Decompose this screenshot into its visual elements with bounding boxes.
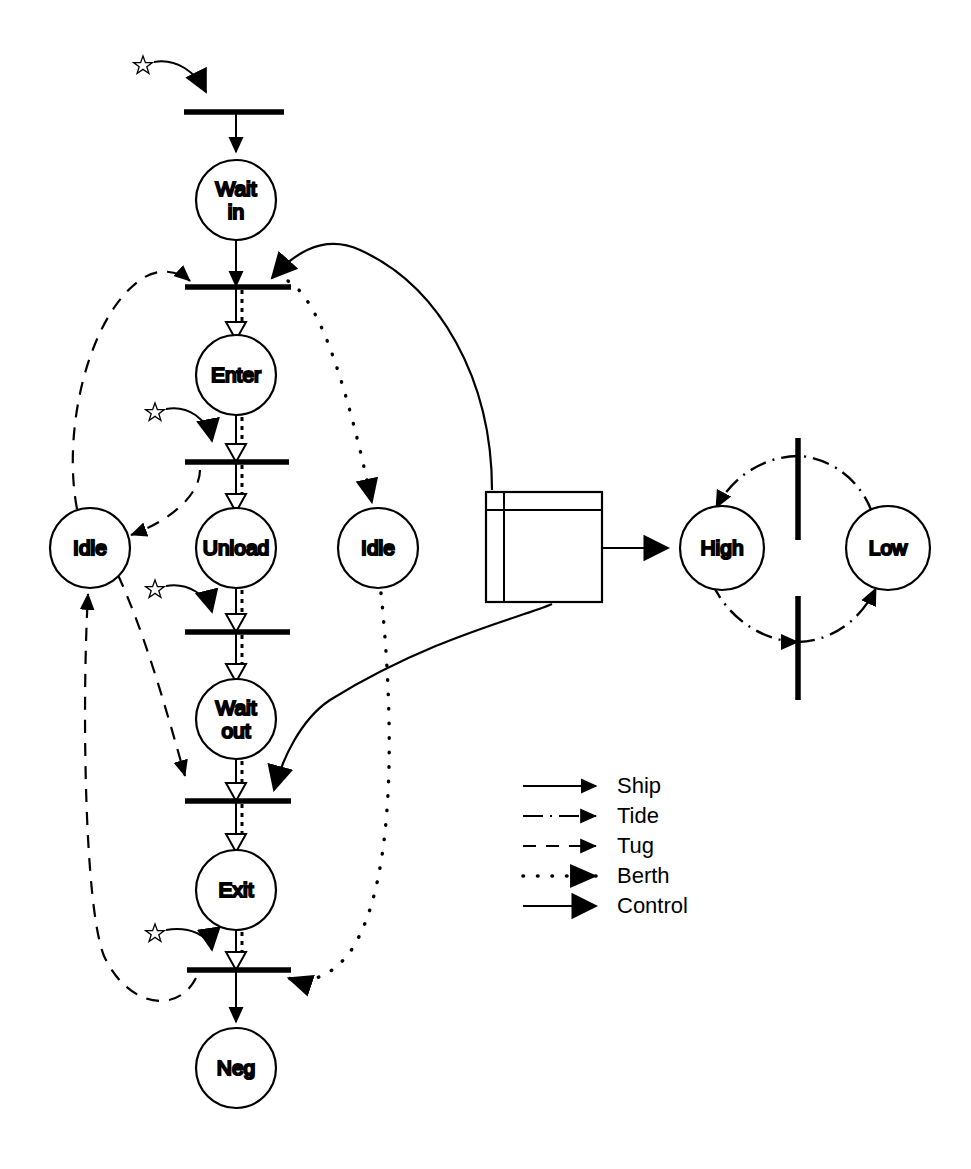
place-tide-low[interactable]: Low — [846, 506, 930, 590]
place-exit-label: Exit — [218, 878, 253, 901]
place-tug-idle-label: Idle — [73, 536, 107, 559]
place-enter[interactable]: Enter — [196, 335, 276, 415]
place-wait-in[interactable]: Wait in — [196, 160, 276, 240]
place-wait-in-label-1: Wait — [215, 177, 256, 200]
place-wait-out[interactable]: Wait out — [196, 679, 276, 759]
place-berth-idle-label: Idle — [361, 536, 395, 559]
legend-control-label: Control — [617, 893, 688, 918]
place-neg[interactable]: Neg — [196, 1028, 276, 1108]
place-unload[interactable]: Unload — [196, 508, 276, 588]
legend-berth-label: Berth — [617, 863, 670, 888]
legend-tug-label: Tug — [617, 833, 654, 858]
place-wait-out-label-1: Wait — [215, 696, 256, 719]
place-exit[interactable]: Exit — [196, 850, 276, 930]
place-wait-out-label-2: out — [221, 719, 250, 742]
place-tide-high-label: High — [700, 536, 743, 559]
control-box[interactable] — [486, 492, 602, 602]
place-neg-label: Neg — [217, 1056, 256, 1079]
place-wait-in-label-2: in — [228, 200, 244, 223]
place-berth-idle[interactable]: Idle — [338, 508, 418, 588]
place-enter-label: Enter — [211, 363, 261, 386]
place-tide-high[interactable]: High — [680, 506, 764, 590]
place-tide-low-label: Low — [869, 536, 908, 559]
legend-ship-label: Ship — [617, 773, 661, 798]
place-unload-label: Unload — [203, 536, 270, 559]
diagram-canvas: Wait in Enter Unload Wait out Exit Neg I… — [0, 0, 971, 1169]
legend-tide-label: Tide — [617, 803, 659, 828]
petri-net-diagram: Wait in Enter Unload Wait out Exit Neg I… — [0, 0, 971, 1169]
place-tug-idle[interactable]: Idle — [50, 508, 130, 588]
